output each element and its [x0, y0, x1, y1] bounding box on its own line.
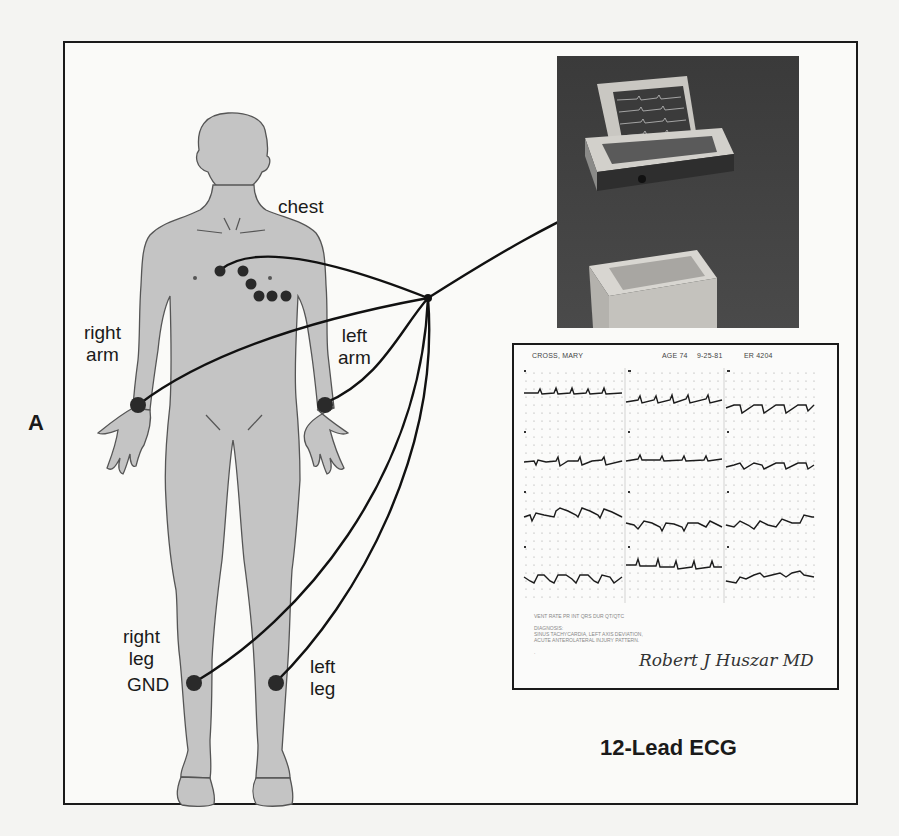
ecg-printout: CROSS, MARY AGE 74 9-25-81 ER 4204	[512, 343, 839, 690]
left-hand	[304, 408, 348, 474]
electrode-v5	[267, 291, 278, 302]
wire-hub	[424, 294, 432, 302]
ecg-note-mark: .	[534, 649, 535, 655]
ecg-device-photo	[557, 56, 799, 328]
ecg-caption: 12-Lead ECG	[600, 735, 737, 761]
right-hand	[98, 408, 151, 474]
ecg-device-illustration	[557, 56, 799, 328]
label-right-arm: right arm	[84, 322, 121, 366]
label-left-arm: left arm	[338, 325, 371, 369]
label-left-leg: left leg	[310, 656, 335, 700]
ecg-diagnosis-line-2: ACUTE ANTEROLATERAL INJURY PATTERN.	[534, 637, 639, 643]
left-foot	[253, 778, 293, 806]
electrode-left-leg	[268, 675, 284, 691]
electrode-v2	[238, 266, 249, 277]
label-gnd: GND	[127, 674, 169, 696]
head	[197, 113, 270, 193]
electrode-v3	[246, 279, 257, 290]
electrode-right-arm	[130, 397, 146, 413]
label-chest: chest	[278, 196, 323, 218]
physician-signature: Robert J Huszar MD	[639, 650, 814, 670]
electrode-left-arm	[317, 397, 333, 413]
ecg-measurements: VENT RATE PR INT QRS DUR QT/QTC	[534, 613, 624, 619]
electrode-v4	[254, 291, 265, 302]
label-right-leg: right leg	[123, 626, 160, 670]
electrode-v6	[281, 291, 292, 302]
electrode-v1	[215, 266, 226, 277]
electrode-right-leg-gnd	[186, 675, 202, 691]
right-foot	[177, 777, 214, 806]
